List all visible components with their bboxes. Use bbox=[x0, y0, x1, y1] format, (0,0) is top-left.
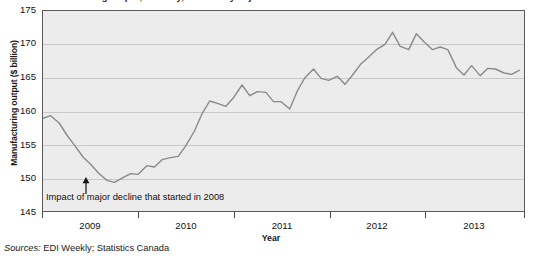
chart-figure: Manufacturing output, monthly, seasonall… bbox=[0, 0, 542, 259]
y-axis-tick-labels: 175 170 165 160 155 150 145 bbox=[8, 0, 36, 259]
x-tick-mark bbox=[138, 212, 139, 218]
source-text: EDI Weekly; Statistics Canada bbox=[41, 243, 170, 253]
x-tick-label-2011: 2011 bbox=[252, 220, 312, 231]
y-tick-label: 145 bbox=[10, 207, 36, 217]
y-tick-label: 150 bbox=[10, 173, 36, 183]
x-tick-mark bbox=[42, 212, 43, 218]
plot-area bbox=[42, 10, 525, 212]
y-tick-label: 175 bbox=[10, 5, 36, 15]
x-tick-label-2013: 2013 bbox=[444, 220, 504, 231]
y-tick-label: 155 bbox=[10, 140, 36, 150]
y-tick-label: 170 bbox=[10, 38, 36, 48]
series-line-manufacturing-output bbox=[43, 11, 524, 211]
y-tick-label: 160 bbox=[10, 106, 36, 116]
x-tick-label-2009: 2009 bbox=[60, 220, 120, 231]
y-tick-label: 165 bbox=[10, 72, 36, 82]
x-tick-mark bbox=[425, 212, 426, 218]
source-note: Sources: EDI Weekly; Statistics Canada bbox=[4, 243, 169, 253]
x-tick-label-2012: 2012 bbox=[347, 220, 407, 231]
x-axis-title: Year bbox=[0, 233, 542, 243]
annotation-label: Impact of major decline that started in … bbox=[46, 192, 224, 202]
chart-title: Manufacturing output, monthly, seasonall… bbox=[42, 0, 462, 3]
x-tick-mark bbox=[234, 212, 235, 218]
x-tick-mark bbox=[330, 212, 331, 218]
x-tick-mark bbox=[524, 212, 525, 218]
source-prefix: Sources: bbox=[4, 243, 41, 253]
x-tick-label-2010: 2010 bbox=[156, 220, 216, 231]
